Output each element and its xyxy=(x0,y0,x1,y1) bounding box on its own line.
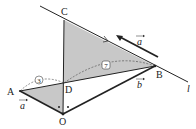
ratio-7-label: 7 xyxy=(104,62,108,70)
point-label-d: D xyxy=(65,84,72,95)
segment-co xyxy=(63,20,64,114)
point-label-c: C xyxy=(61,6,68,17)
vector-geometry-diagram: 3 7 C B D A O l a a b xyxy=(0,0,196,129)
vector-label-a-top: a xyxy=(137,36,142,47)
arrowhead-icon xyxy=(143,78,145,80)
angle-mark-dot xyxy=(67,106,69,108)
shaded-triangle-ado xyxy=(20,83,64,114)
point-a-dot xyxy=(19,90,21,92)
vector-label-a-bottom: a xyxy=(20,100,25,111)
point-label-o: O xyxy=(59,116,66,127)
ratio-3-label: 3 xyxy=(37,77,41,85)
point-o-dot xyxy=(62,113,65,116)
point-label-b: B xyxy=(156,69,163,80)
angle-mark-dot xyxy=(58,106,60,108)
line-label-l: l xyxy=(187,83,190,94)
arrowhead-icon xyxy=(143,35,145,37)
point-b-dot xyxy=(154,65,157,68)
arrowhead-icon xyxy=(26,99,28,101)
point-label-a: A xyxy=(7,86,15,97)
vector-label-b: b xyxy=(137,79,142,90)
